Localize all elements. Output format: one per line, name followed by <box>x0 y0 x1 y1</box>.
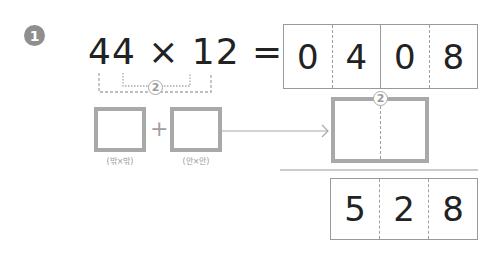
answer-digit: 8 <box>428 179 477 239</box>
outer-label: (밖×밖) <box>94 155 146 166</box>
answer-digit: 5 <box>331 179 379 239</box>
middle-label-circle: 2 <box>373 91 388 106</box>
middle-cell-right[interactable] <box>380 101 426 159</box>
plus-sign: + <box>150 116 168 141</box>
digit-cell: 8 <box>429 25 478 88</box>
outer-product-input[interactable] <box>94 107 146 152</box>
digit-cell: 0 <box>284 25 332 88</box>
bracket-label: 2 <box>152 81 160 94</box>
partial-product-box: 0 4 0 8 <box>283 24 478 89</box>
inner-label: (안×안) <box>170 155 222 166</box>
inner-product-input[interactable] <box>170 107 222 152</box>
digit-cell: 0 <box>380 25 429 88</box>
bracket-label-circle: 2 <box>148 80 163 95</box>
answer-box: 5 2 8 <box>330 178 478 240</box>
answer-digit: 2 <box>379 179 428 239</box>
middle-sum-input[interactable] <box>331 97 429 163</box>
middle-label: 2 <box>377 92 385 105</box>
digit-cell: 4 <box>332 25 381 88</box>
middle-cell-left[interactable] <box>335 101 380 159</box>
